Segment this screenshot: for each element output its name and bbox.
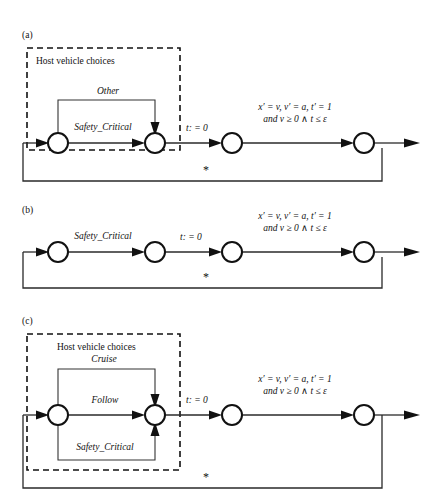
panel-c-flow-line2: and v ≥ 0 ∧ t ≤ ε: [263, 386, 327, 396]
panel-c-loop-star: *: [203, 470, 209, 484]
panel-c-exit-edge: [374, 411, 420, 420]
panel-b-node-3: [222, 242, 242, 262]
panel-a: (a) Host vehicle choices * Other Safety_…: [22, 30, 420, 181]
panel-b: (b) * Safety_Critical t: = 0 x′ = v, v′ …: [22, 205, 420, 288]
panel-a-label-safety-critical: Safety_Critical: [74, 122, 132, 132]
panel-b-label: (b): [22, 205, 33, 216]
panel-b-node-2: [145, 242, 165, 262]
panel-b-flow-line2: and v ≥ 0 ∧ t ≤ ε: [263, 223, 327, 233]
panel-c-edge-flow: [242, 411, 354, 420]
panel-b-edge-flow: [242, 248, 354, 257]
panel-a-edge-flow: [242, 139, 354, 148]
panel-c-transition-cruise: [58, 369, 160, 415]
panel-a-node-1: [48, 133, 68, 153]
panel-c-label-follow: Follow: [91, 395, 120, 405]
panel-c-node-1: [48, 405, 68, 425]
panel-b-transition-safety-critical: [68, 248, 145, 257]
panel-b-exit-edge: [374, 248, 420, 257]
panel-a-box-title: Host vehicle choices: [36, 56, 115, 66]
panel-a-edge-reset: [165, 139, 222, 148]
panel-c-label-cruise: Cruise: [91, 354, 116, 364]
panel-c-follow-arrowhead: [132, 411, 145, 420]
panel-b-safety-arrowhead: [132, 248, 145, 257]
panel-a-node-2: [145, 133, 165, 153]
panel-c-edge-reset: [165, 411, 222, 420]
panel-b-loop-star: *: [203, 270, 209, 284]
panel-c-flow-line1: x′ = v, v′ = a, t′ = 1: [257, 374, 331, 384]
panel-c-reset-arrowhead: [209, 411, 222, 420]
panel-c-label-safety-critical: Safety_Critical: [76, 442, 134, 452]
panel-c-node-2: [145, 405, 165, 425]
panel-a-reset-label: t: = 0: [186, 123, 208, 133]
panel-b-node-4: [354, 242, 374, 262]
panel-a-flow-line2: and v ≥ 0 ∧ t ≤ ε: [263, 114, 327, 124]
panel-a-loop-star: *: [203, 163, 209, 177]
panel-a-exit-arrowhead: [404, 139, 420, 148]
panel-a-node-3: [222, 133, 242, 153]
panel-c-box-title: Host vehicle choices: [57, 342, 136, 352]
panel-a-flow-arrowhead: [341, 139, 354, 148]
panel-b-label-safety-critical: Safety_Critical: [74, 231, 132, 241]
panel-c-node-4: [354, 405, 374, 425]
panel-a-label-other: Other: [97, 86, 119, 96]
panel-a-flow-line1: x′ = v, v′ = a, t′ = 1: [257, 102, 331, 112]
panel-c-label: (c): [22, 316, 33, 327]
panel-a-transition-safety-critical: [68, 139, 145, 148]
panel-c-exit-arrowhead: [404, 411, 420, 420]
panel-b-flow-arrowhead: [341, 248, 354, 257]
panel-a-label: (a): [22, 30, 33, 41]
panel-c-transition-safety-critical: [58, 415, 160, 460]
panel-b-reset-arrowhead: [209, 248, 222, 257]
panel-b-node-1: [48, 242, 68, 262]
figure-canvas: (a) Host vehicle choices * Other Safety_…: [0, 0, 434, 500]
panel-a-exit-edge: [374, 139, 420, 148]
panel-a-node-4: [354, 133, 374, 153]
panel-b-exit-arrowhead: [404, 248, 420, 257]
panel-a-reset-arrowhead: [209, 139, 222, 148]
panel-c-transition-follow: [68, 411, 145, 420]
panel-c-flow-arrowhead: [341, 411, 354, 420]
panel-c-node-3: [222, 405, 242, 425]
panel-b-reset-label: t: = 0: [180, 232, 202, 242]
panel-b-edge-reset: [165, 248, 222, 257]
panel-c: (c) Host vehicle choices * Cruise Follow…: [22, 316, 420, 488]
panel-a-safety-arrowhead: [132, 139, 145, 148]
panel-c-reset-label: t: = 0: [186, 395, 208, 405]
panel-b-flow-line1: x′ = v, v′ = a, t′ = 1: [257, 211, 331, 221]
